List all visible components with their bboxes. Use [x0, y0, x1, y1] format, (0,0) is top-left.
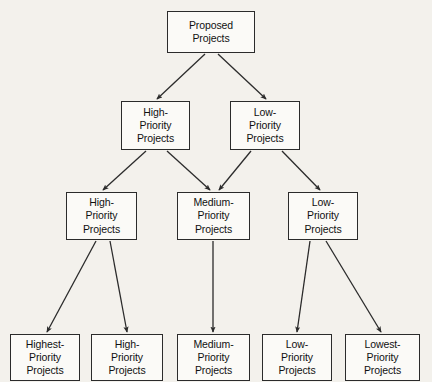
- node-proposed[interactable]: ProposedProjects: [167, 11, 255, 53]
- connector-proposed-to-l2-low: [218, 54, 266, 99]
- node-l3-low[interactable]: Low-PriorityProjects: [288, 192, 358, 240]
- node-label-line: High-: [115, 338, 140, 351]
- node-label-line: Highest-: [26, 338, 64, 351]
- node-label-line: Priority: [86, 209, 118, 222]
- node-l2-low[interactable]: Low-PriorityProjects: [230, 101, 300, 150]
- node-label-line: Medium-: [193, 196, 233, 209]
- connector-layer: [0, 0, 432, 382]
- node-l3-high[interactable]: High-PriorityProjects: [66, 192, 137, 240]
- node-l4-high[interactable]: High-PriorityProjects: [91, 334, 163, 381]
- node-label-line: Priority: [29, 351, 61, 364]
- node-label-line: Priority: [281, 351, 313, 364]
- node-label-line: Projects: [246, 132, 283, 145]
- node-label-line: High-: [89, 196, 114, 209]
- connector-l2-low-to-l3-low: [282, 151, 320, 190]
- node-label-line: High-: [143, 106, 168, 119]
- node-l4-lowest[interactable]: Lowest-PriorityProjects: [345, 334, 420, 381]
- node-label-line: Projects: [364, 364, 401, 377]
- node-label-line: Priority: [249, 119, 281, 132]
- node-label-line: Projects: [26, 364, 63, 377]
- connector-l3-low-to-l4-low: [297, 241, 310, 332]
- node-label-line: Projects: [278, 364, 315, 377]
- node-label-line: Projects: [137, 132, 174, 145]
- connector-l3-low-to-l4-lowest: [326, 241, 381, 332]
- diagram-canvas: ProposedProjectsHigh-PriorityProjectsLow…: [0, 0, 432, 382]
- connector-l3-high-to-l4-highest: [47, 241, 96, 332]
- node-label-line: Projects: [108, 364, 145, 377]
- node-label-line: Proposed: [189, 19, 233, 32]
- connector-l2-high-to-l3-high: [103, 151, 146, 190]
- connector-l2-low-to-l3-medium: [219, 151, 251, 190]
- node-l3-medium[interactable]: Medium-PriorityProjects: [177, 192, 250, 240]
- node-label-line: Priority: [198, 351, 230, 364]
- node-label-line: Lowest-: [364, 338, 400, 351]
- node-label-line: Low-: [254, 106, 276, 119]
- node-l4-low[interactable]: Low-PriorityProjects: [262, 334, 332, 381]
- node-label-line: Projects: [83, 223, 120, 236]
- node-label-line: Projects: [195, 364, 232, 377]
- node-label-line: Priority: [307, 209, 339, 222]
- node-label-line: Priority: [367, 351, 399, 364]
- connector-l2-high-to-l3-medium: [167, 151, 210, 190]
- node-label-line: Priority: [198, 209, 230, 222]
- connector-proposed-to-l2-high: [157, 54, 205, 99]
- node-label-line: Medium-: [193, 338, 233, 351]
- node-label-line: Projects: [192, 32, 229, 45]
- node-l4-medium[interactable]: Medium-PriorityProjects: [177, 334, 250, 381]
- node-l2-high[interactable]: High-PriorityProjects: [121, 101, 190, 150]
- connector-l3-high-to-l4-high: [110, 241, 127, 332]
- node-label-line: Low-: [312, 196, 334, 209]
- node-label-line: Priority: [111, 351, 143, 364]
- node-label-line: Priority: [140, 119, 172, 132]
- node-label-line: Projects: [195, 223, 232, 236]
- node-label-line: Projects: [304, 223, 341, 236]
- node-label-line: Low-: [286, 338, 308, 351]
- node-l4-highest[interactable]: Highest-PriorityProjects: [10, 334, 80, 381]
